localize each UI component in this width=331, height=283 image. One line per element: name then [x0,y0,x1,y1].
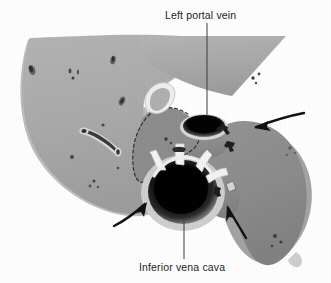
label-left-portal-vein: Left portal vein [165,9,236,21]
liver-anatomy-figure: Left portal vein Inferior vena cava [0,0,331,283]
inferior-vena-cava [141,155,225,231]
label-inferior-vena-cava: Inferior vena cava [139,261,225,273]
arrow-upper-right [254,113,304,131]
anatomy-illustration [0,0,331,283]
